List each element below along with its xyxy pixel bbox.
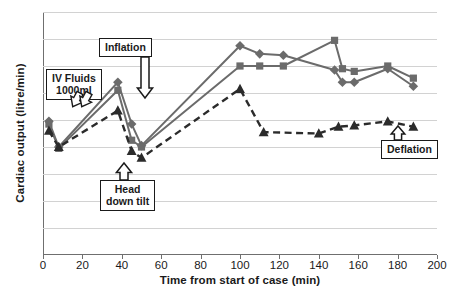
arrow-head-down-tilt: [116, 163, 131, 180]
arrow-inflation: [137, 57, 152, 98]
chart-figure: Cardiac output (litre/min) Time from sta…: [0, 0, 450, 297]
annotation-arrows: [0, 0, 450, 297]
arrow-deflation: [391, 126, 405, 140]
